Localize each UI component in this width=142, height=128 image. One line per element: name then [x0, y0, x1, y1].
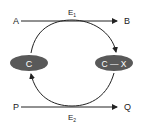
enzyme-e1-label: E1 [68, 8, 76, 18]
enzyme-e2-label: E2 [68, 113, 76, 123]
label-q: Q [124, 102, 131, 112]
curve-cx-to-c [31, 73, 114, 106]
reaction-cycle-diagram: A B E1 C C — X P Q E2 [0, 0, 142, 128]
label-p: P [13, 102, 19, 112]
node-c-label: C [26, 59, 33, 69]
node-c-x-label: C — X [101, 59, 126, 69]
curve-c-to-cx [31, 20, 116, 53]
label-a: A [13, 16, 19, 26]
label-b: B [124, 16, 130, 26]
